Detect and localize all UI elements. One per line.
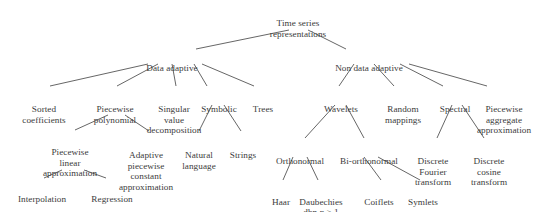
node-label: Discrete cosine transform [471,156,507,187]
node-piecewise-polynomial: Piecewise polynomial [94,94,136,125]
node-regression: Regression [91,184,132,205]
node-label: Orthonormal [276,156,324,166]
node-coiflets: Coiflets [364,187,394,208]
node-label: Discrete Fourier transform [415,156,451,187]
taxonomy-diagram: Time series representations Data adaptiv… [0,0,537,212]
node-label: Haar [272,197,290,207]
node-piecewise-linear-approximation: Piecewise linear approximation [43,137,97,179]
node-label: Piecewise aggregate approximation [477,104,531,135]
node-discrete-cosine-transform: Discrete cosine transform [471,146,507,188]
node-label: Wavelets [324,104,358,114]
node-label: Spectral [440,104,471,114]
node-label: Coiflets [364,197,394,207]
node-non-data-adaptive: Non data adaptive [335,53,403,74]
node-label: Interpolation [18,194,66,204]
node-label: Trees [253,104,273,114]
node-discrete-fourier-transform: Discrete Fourier transform [415,146,451,188]
daubechies-order-suffix: > 1 [324,207,339,212]
node-label: Data adaptive [146,63,197,73]
node-piecewise-aggregate-approximation: Piecewise aggregate approximation [477,94,531,136]
node-symbolic: Symbolic [201,94,237,115]
node-orthonormal: Orthonormal [276,146,324,167]
daubechies-order-prefix: dbn [303,207,319,212]
node-label: Bi-orthonormal [340,156,398,166]
node-data-adaptive: Data adaptive [146,53,197,74]
node-label: Piecewise polynomial [94,104,136,124]
node-singular-value-decomposition: Singular value decomposition [147,94,202,136]
node-strings: Strings [230,140,256,161]
node-label: Random mappings [385,104,421,124]
node-label: Natural language [182,150,216,170]
node-root: Time series representations [270,8,326,39]
node-trees: Trees [253,94,273,115]
node-label: Symbolic [201,104,237,114]
node-label: Regression [91,194,132,204]
edge-non_data_adaptive-to-spectral [400,64,443,86]
node-sorted-coefficients: Sorted coefficients [22,94,65,125]
node-label: Piecewise linear approximation [43,147,97,178]
edge-data_adaptive-to-trees [202,64,254,86]
edge-non_data_adaptive-to-piecewise_aggregate_approximation [409,64,487,86]
node-bi-orthonormal: Bi-orthonormal [340,146,398,167]
node-symlets: Symlets [408,187,438,208]
node-label: Sorted coefficients [22,104,65,124]
node-label: Time series representations [270,18,326,38]
node-daubechies-order: dbn n > 1 [303,197,339,212]
edge-data_adaptive-to-sorted_coefficients [50,64,148,86]
node-haar: Haar [272,187,290,208]
node-spectral: Spectral [440,94,471,115]
node-interpolation: Interpolation [18,184,66,205]
node-label: Singular value decomposition [147,104,202,135]
node-random-mappings: Random mappings [385,94,421,125]
node-wavelets: Wavelets [324,94,358,115]
node-natural-language: Natural language [182,140,216,171]
node-label: Non data adaptive [335,63,403,73]
node-label: Symlets [408,197,438,207]
node-label: Strings [230,150,256,160]
